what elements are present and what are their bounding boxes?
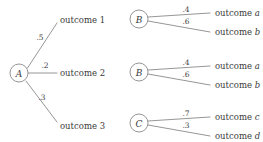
probability-label-b-top-b: .6 <box>182 17 189 26</box>
level2-outcome-labels: outcome a outcome b outcome a outcome b … <box>215 8 261 141</box>
probability-label-b-middle-b: .6 <box>182 70 189 79</box>
tree-canvas: A B B C .5 .2 .3 outcome 1 outcome 2 out… <box>0 0 263 142</box>
level2-edges-node-c <box>148 117 210 136</box>
edge-b-middle-to-outcome-a <box>148 66 210 70</box>
outcome-label-2: outcome 2 <box>60 68 105 78</box>
outcome-label-b-middle-a: outcome a <box>215 61 260 71</box>
node-b-top-label: B <box>135 15 143 25</box>
edge-a-to-outcome-3 <box>26 81 57 122</box>
outcome-label-b-top-b: outcome b <box>215 27 260 37</box>
probability-label-0-5: .5 <box>36 33 43 42</box>
node-a-label: A <box>15 69 23 79</box>
outcome-label-b-middle-b: outcome b <box>215 80 260 90</box>
edge-b-top-to-outcome-a <box>148 13 210 17</box>
level1-probability-labels: .5 .2 .3 <box>36 33 48 102</box>
node-c: C <box>130 114 148 132</box>
probability-label-0-2: .2 <box>41 61 48 70</box>
outcome-label-3: outcome 3 <box>60 121 105 131</box>
probability-label-b-middle-a: .4 <box>182 58 189 67</box>
node-b-middle: B <box>130 63 148 81</box>
edge-c-to-outcome-d <box>148 125 210 136</box>
node-b-top: B <box>130 10 148 28</box>
level2-edges-node-b-middle <box>148 66 210 85</box>
edge-b-middle-to-outcome-b <box>148 74 210 85</box>
outcome-label-b-top-a: outcome a <box>215 8 260 18</box>
node-b-middle-label: B <box>135 68 143 78</box>
edge-c-to-outcome-c <box>148 117 210 121</box>
probability-label-c-c: .7 <box>182 109 189 118</box>
node-c-label: C <box>136 119 143 129</box>
node-a: A <box>10 64 28 82</box>
outcome-label-c-d: outcome d <box>215 131 261 141</box>
outcome-label-1: outcome 1 <box>60 15 105 25</box>
level2-edges-node-b-top <box>148 13 210 32</box>
probability-label-c-d: .3 <box>182 121 189 130</box>
outcome-label-c-c: outcome c <box>215 112 260 122</box>
edge-b-top-to-outcome-b <box>148 21 210 32</box>
probability-label-0-3: .3 <box>38 93 45 102</box>
probability-tree-diagram: A B B C .5 .2 .3 outcome 1 outcome 2 out… <box>0 0 263 142</box>
probability-label-b-top-a: .4 <box>182 5 189 14</box>
level1-outcome-labels: outcome 1 outcome 2 outcome 3 <box>60 15 105 131</box>
